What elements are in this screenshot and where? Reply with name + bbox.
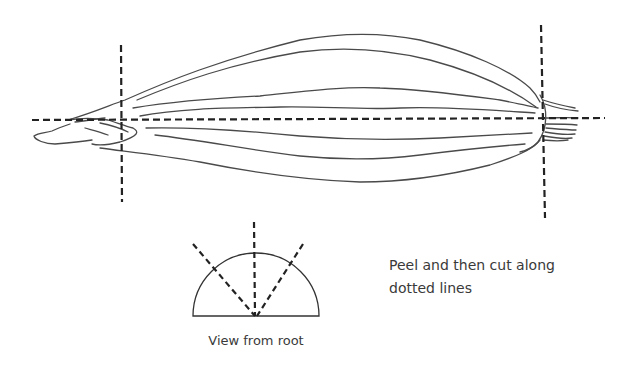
layer-4 — [140, 107, 535, 116]
root-strand — [546, 128, 576, 130]
root-view-diagram — [193, 222, 319, 316]
root-view-cut-left — [193, 244, 255, 316]
cut-lines — [32, 25, 605, 218]
neck-tip — [34, 124, 92, 144]
neck-leaf — [85, 128, 108, 135]
layer-5 — [146, 128, 532, 140]
view-from-root-caption: View from root — [200, 329, 312, 352]
neck-leaf — [100, 123, 128, 132]
root-strand — [544, 136, 572, 138]
horizontal-cut-line — [32, 118, 605, 120]
root-strand — [545, 132, 575, 134]
layer-3 — [133, 88, 538, 108]
instruction-line-2: dotted lines — [389, 277, 589, 300]
onion-cutting-diagram — [0, 0, 630, 366]
root-strand — [543, 140, 568, 141]
root-view-cut-center — [254, 222, 255, 316]
onion-bulb — [34, 34, 578, 182]
right-vertical-cut-line — [541, 25, 545, 218]
root-strand — [543, 100, 575, 108]
root-view-cut-right — [257, 244, 303, 316]
outer-skin-bottom — [100, 140, 540, 182]
root-strand — [546, 124, 577, 125]
instruction-text: Peel and then cut along dotted lines — [389, 254, 589, 300]
root-view-semicircle — [193, 253, 319, 316]
instruction-line-1: Peel and then cut along — [389, 254, 589, 277]
left-vertical-cut-line — [121, 45, 122, 202]
